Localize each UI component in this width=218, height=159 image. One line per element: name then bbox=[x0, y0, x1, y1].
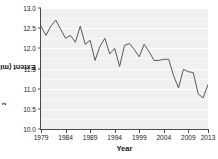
plot-panel bbox=[41, 8, 208, 129]
x-axis-tick-label: 2004 bbox=[156, 134, 171, 141]
x-axis-tick-mark bbox=[66, 130, 67, 133]
x-axis-tick-label: 1994 bbox=[107, 134, 122, 141]
x-axis-tick-mark bbox=[90, 130, 91, 133]
x-axis-tick-mark bbox=[115, 130, 116, 133]
x-axis-tick-mark bbox=[188, 130, 189, 133]
x-axis-title: Year bbox=[41, 144, 208, 153]
y-axis-tick-labels: 10.010.511.011.512.012.513.0 bbox=[14, 8, 38, 129]
data-series-line bbox=[41, 8, 208, 129]
sea-ice-extent-line-chart: Extent (millions of km2) 10.010.511.011.… bbox=[0, 0, 218, 159]
x-axis-tick-mark bbox=[208, 130, 209, 133]
x-axis-tick-label: 2013 bbox=[201, 134, 216, 141]
y-axis-tick-label: 12.0 bbox=[23, 45, 36, 52]
x-axis-tick-mark bbox=[164, 130, 165, 133]
x-axis-tick-mark bbox=[139, 130, 140, 133]
y-axis-line bbox=[40, 8, 41, 130]
x-axis-tick-label: 1999 bbox=[132, 134, 147, 141]
x-axis-tick-label: 1979 bbox=[34, 134, 49, 141]
x-axis-tick-label: 2009 bbox=[181, 134, 196, 141]
x-axis-tick-labels: 19791984198919941999200420092013 bbox=[41, 130, 208, 144]
y-axis-tick-label: 13.0 bbox=[23, 5, 36, 12]
y-axis-tick-label: 10.5 bbox=[23, 105, 36, 112]
y-axis-tick-label: 11.0 bbox=[24, 85, 36, 92]
y-axis-tick-label: 12.5 bbox=[23, 25, 36, 32]
y-axis-title-superscript: 2 bbox=[1, 102, 7, 105]
sea-ice-extent-polyline bbox=[41, 20, 208, 98]
y-axis-tick-label: 11.5 bbox=[24, 65, 36, 72]
x-axis-tick-label: 1989 bbox=[83, 134, 98, 141]
x-axis-tick-mark bbox=[41, 130, 42, 133]
x-axis-tick-label: 1984 bbox=[58, 134, 73, 141]
y-axis-tick-label: 10.0 bbox=[23, 126, 36, 133]
y-axis-title: Extent (millions of km2) bbox=[0, 0, 14, 134]
